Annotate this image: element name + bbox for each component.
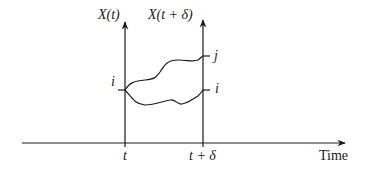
right-axis-label: X(t + δ): [147, 7, 193, 23]
end-state-i-label: i: [215, 81, 219, 96]
path-to-i: [125, 90, 203, 105]
time-axis-label: Time: [319, 148, 348, 163]
left-axis-label: X(t): [97, 7, 120, 23]
path-to-j: [125, 56, 203, 90]
start-state-label: i: [111, 74, 115, 89]
end-state-j-label: j: [212, 48, 218, 63]
markov-transition-diagram: X(t) X(t + δ) i j i t t + δ Time: [0, 0, 367, 170]
tick-label-t: t: [123, 148, 128, 163]
tick-label-t-delta: t + δ: [189, 148, 216, 163]
